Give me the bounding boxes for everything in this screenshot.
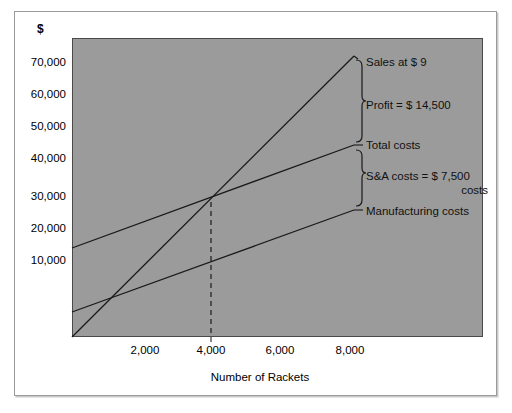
y-tick-label-50000: 50,000 [31, 120, 66, 132]
x-tick-label-8000: 8,000 [320, 344, 380, 356]
sa-costs-label: S&A costs = $ 7,500 [366, 170, 470, 183]
y-tick-label-70000: 70,000 [31, 56, 66, 68]
y-axis-unit-label: $ [37, 23, 44, 35]
breakeven-chart-figure: $ 70,000 60,000 50,000 40,000 30,000 20,… [0, 0, 512, 413]
x-axis-title: Number of Rackets [160, 371, 360, 384]
y-tick-label-60000: 60,000 [31, 88, 66, 100]
x-tick-label-4000: 4,000 [181, 344, 241, 356]
y-tick-label-30000: 30,000 [31, 190, 66, 202]
y-tick-label-40000: 40,000 [31, 152, 66, 164]
x-tick-label-2000: 2,000 [115, 344, 175, 356]
manufacturing-costs-label: Manufacturing costs [366, 205, 469, 218]
sa-costs-label-continuation: costs [366, 184, 488, 197]
y-tick-label-10000: 10,000 [31, 254, 66, 266]
profit-label: Profit = $ 14,500 [366, 99, 451, 112]
sales-label: Sales at $ 9 [366, 56, 427, 69]
total-costs-label: Total costs [366, 139, 420, 152]
x-tick-label-6000: 6,000 [250, 344, 310, 356]
y-tick-label-20000: 20,000 [31, 222, 66, 234]
